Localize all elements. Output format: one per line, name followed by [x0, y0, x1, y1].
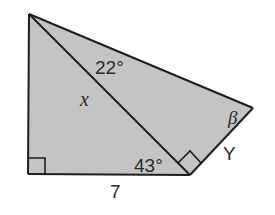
angle-label-43: 43°: [134, 155, 163, 176]
side-label-x: x: [79, 88, 89, 110]
side-label-y: Y: [223, 143, 236, 164]
side-label-7: 7: [110, 181, 121, 202]
base-edge: [28, 174, 190, 175]
angle-label-beta: β: [227, 107, 238, 128]
geometry-diagram: 22° 43° x 7 Y β: [0, 0, 275, 215]
angle-label-22: 22°: [95, 57, 124, 78]
left-edge: [28, 14, 29, 174]
